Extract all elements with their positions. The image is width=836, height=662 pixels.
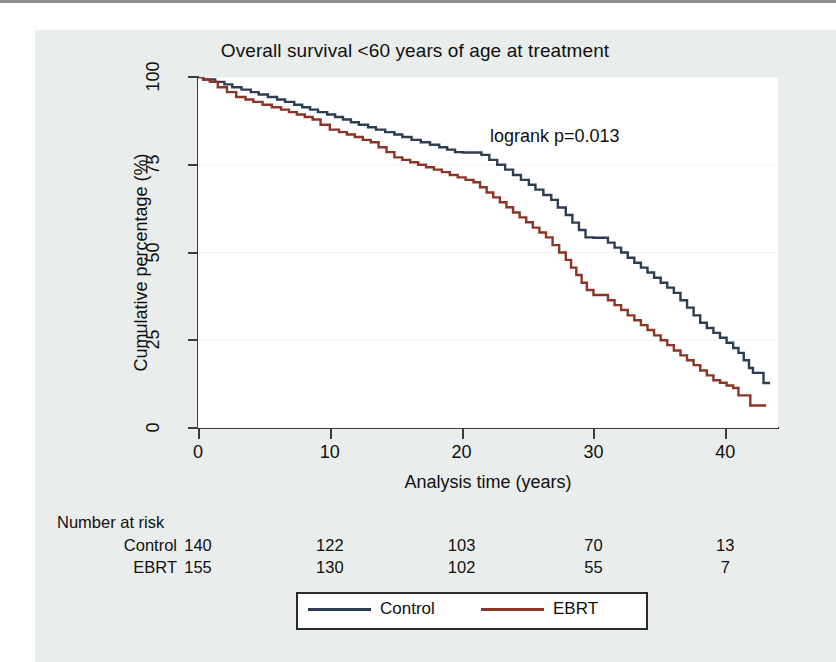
legend-line-icon: [481, 608, 544, 611]
legend-label: Control: [380, 599, 435, 619]
survival-chart-figure: Overall survival <60 years of age at tre…: [35, 30, 836, 662]
y-tick-mark: [188, 164, 197, 166]
plot-area: [198, 77, 778, 428]
x-tick-mark: [198, 429, 200, 439]
y-tick-label: 75: [143, 134, 164, 194]
gridlines-group: [198, 77, 778, 428]
x-tick-label: 10: [300, 442, 360, 463]
scan-top-rule: [0, 0, 836, 3]
x-tick-mark: [725, 429, 727, 439]
risk-row-label: EBRT: [57, 558, 177, 577]
y-tick-label: 0: [143, 398, 164, 458]
x-axis-label: Analysis time (years): [198, 472, 778, 493]
y-tick-mark: [188, 427, 197, 429]
x-tick-mark: [330, 429, 332, 439]
survival-curve-control: [198, 77, 770, 383]
legend-line-icon: [308, 608, 371, 611]
risk-value: 7: [698, 558, 752, 577]
y-tick-label: 50: [143, 222, 164, 282]
survival-curve-ebrt: [198, 77, 766, 406]
risk-value: 140: [171, 536, 225, 555]
survival-curves: [198, 77, 778, 428]
x-tick-mark: [593, 429, 595, 439]
y-tick-label: 100: [143, 47, 164, 107]
number-at-risk-heading: Number at risk: [57, 513, 164, 532]
x-tick-label: 40: [695, 442, 755, 463]
legend-entry[interactable]: EBRT: [481, 594, 598, 624]
y-tick-mark: [188, 339, 197, 341]
risk-row: Control1401221037013: [57, 536, 797, 558]
risk-value: 122: [303, 536, 357, 555]
logrank-annotation: logrank p=0.013: [490, 126, 620, 147]
risk-value: 130: [303, 558, 357, 577]
legend-entry[interactable]: Control: [308, 594, 435, 624]
x-tick-label: 20: [432, 442, 492, 463]
risk-value: 155: [171, 558, 225, 577]
risk-value: 70: [566, 536, 620, 555]
risk-row-label: Control: [57, 536, 177, 555]
risk-row: EBRT155130102557: [57, 558, 797, 580]
x-tick-label: 0: [168, 442, 228, 463]
x-tick-mark: [462, 429, 464, 439]
risk-value: 102: [435, 558, 489, 577]
y-tick-label: 25: [143, 310, 164, 370]
series-group: [198, 77, 770, 406]
legend-label: EBRT: [553, 599, 598, 619]
risk-value: 55: [566, 558, 620, 577]
x-tick-label: 30: [563, 442, 623, 463]
risk-value: 13: [698, 536, 752, 555]
chart-legend: ControlEBRT: [296, 592, 648, 630]
y-tick-mark: [188, 252, 197, 254]
y-tick-mark: [188, 76, 197, 78]
risk-value: 103: [435, 536, 489, 555]
